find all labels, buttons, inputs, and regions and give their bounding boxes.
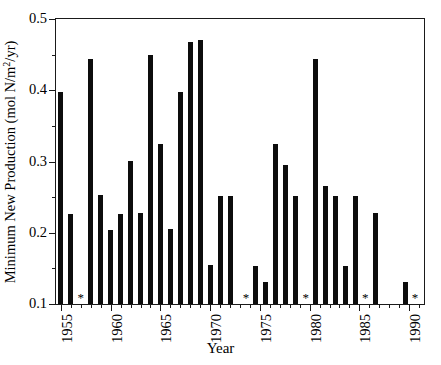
y-axis-tick-label: 0.4: [29, 81, 47, 98]
x-axis-tick-label: 1960: [108, 314, 125, 343]
x-axis-minor-tick: [141, 304, 142, 308]
y-axis-tick: [49, 90, 56, 91]
x-axis-title: Year: [0, 340, 441, 357]
bar: [273, 144, 278, 304]
bar: [108, 230, 113, 304]
x-axis-tick: [61, 304, 62, 311]
y-axis-minor-tick: [52, 126, 56, 127]
bar: [263, 282, 268, 304]
x-axis-minor-tick: [91, 304, 92, 308]
y-axis-tick: [49, 233, 56, 234]
x-axis-minor-tick: [180, 304, 181, 308]
bar: [58, 92, 63, 304]
bar: [333, 196, 338, 304]
y-axis-title-post: /yr): [2, 40, 18, 61]
x-axis-tick: [409, 304, 410, 311]
x-axis-minor-tick: [101, 304, 102, 308]
x-axis-minor-tick: [349, 304, 350, 308]
missing-data-marker: *: [76, 293, 85, 302]
x-axis-minor-tick: [369, 304, 370, 308]
bars-layer: *****: [56, 19, 424, 304]
x-axis-tick: [160, 304, 161, 311]
bar: [198, 40, 203, 304]
missing-data-marker: *: [411, 293, 420, 302]
y-axis-tick: [49, 304, 56, 305]
x-axis-minor-tick: [389, 304, 390, 308]
x-axis-minor-tick: [280, 304, 281, 308]
x-axis-minor-tick: [330, 304, 331, 308]
x-axis-minor-tick: [320, 304, 321, 308]
bar: [373, 213, 378, 304]
y-axis-minor-tick: [52, 268, 56, 269]
x-axis-tick-label: 1985: [357, 314, 374, 343]
bar: [118, 214, 123, 304]
y-axis-minor-tick: [52, 197, 56, 198]
y-axis-tick-label: 0.2: [29, 224, 47, 241]
bar: [228, 196, 233, 304]
bar: [218, 196, 223, 304]
x-axis-tick: [260, 304, 261, 311]
x-axis-minor-tick: [300, 304, 301, 308]
x-axis-minor-tick: [190, 304, 191, 308]
bar: [323, 186, 328, 304]
y-axis-title-pre: Minimum New Production (mol N/m: [2, 66, 18, 283]
y-axis-title: Minimum New Production (mol N/m2/yr): [1, 40, 20, 283]
bar: [148, 55, 153, 304]
x-axis-minor-tick: [131, 304, 132, 308]
x-axis-minor-tick: [230, 304, 231, 308]
x-axis-tick-label: 1990: [407, 314, 424, 343]
bar: [158, 144, 163, 304]
bar: [128, 161, 133, 304]
x-axis-minor-tick: [200, 304, 201, 308]
x-axis-minor-tick: [399, 304, 400, 308]
x-axis-minor-tick: [240, 304, 241, 308]
x-axis-minor-tick: [250, 304, 251, 308]
bar: [283, 165, 288, 304]
bar: [353, 196, 358, 304]
x-axis-minor-tick: [270, 304, 271, 308]
missing-data-marker: *: [361, 293, 370, 302]
bar: [178, 92, 183, 304]
x-axis-minor-tick: [81, 304, 82, 308]
missing-data-marker: *: [241, 293, 250, 302]
plot-area: ***** Minimum New Production (mol N/m2/y…: [55, 18, 425, 305]
x-axis-tick-label: 1965: [158, 314, 175, 343]
bar: [313, 59, 318, 304]
y-axis-tick-label: 0.3: [29, 153, 47, 170]
bar: [188, 42, 193, 304]
x-axis-minor-tick: [220, 304, 221, 308]
x-axis-minor-tick: [290, 304, 291, 308]
x-axis-tick: [310, 304, 311, 311]
bar: [168, 229, 173, 304]
x-axis-minor-tick: [71, 304, 72, 308]
bar: [208, 265, 213, 304]
x-axis-minor-tick: [121, 304, 122, 308]
bar: [138, 213, 143, 304]
bar: [293, 196, 298, 304]
x-axis-tick: [359, 304, 360, 311]
y-axis-tick: [49, 19, 56, 20]
x-axis-tick: [111, 304, 112, 311]
x-axis-minor-tick: [150, 304, 151, 308]
y-axis-tick: [49, 162, 56, 163]
x-axis-tick-label: 1980: [307, 314, 324, 343]
x-axis-tick-label: 1955: [58, 314, 75, 343]
x-axis-minor-tick: [419, 304, 420, 308]
x-axis-minor-tick: [170, 304, 171, 308]
x-axis-tick-label: 1975: [257, 314, 274, 343]
bar: [88, 59, 93, 304]
x-axis-minor-tick: [379, 304, 380, 308]
y-axis-title-superscript: 2: [1, 61, 12, 66]
y-axis-minor-tick: [52, 55, 56, 56]
chart-figure: ***** Minimum New Production (mol N/m2/y…: [0, 0, 441, 365]
missing-data-marker: *: [301, 293, 310, 302]
x-axis-tick: [210, 304, 211, 311]
bar: [343, 266, 348, 304]
bar: [253, 266, 258, 304]
x-axis-tick-label: 1970: [208, 314, 225, 343]
y-axis-tick-label: 0.1: [29, 295, 47, 312]
x-axis-minor-tick: [339, 304, 340, 308]
bar: [403, 282, 408, 304]
bar: [98, 195, 103, 304]
y-axis-tick-label: 0.5: [29, 10, 47, 27]
